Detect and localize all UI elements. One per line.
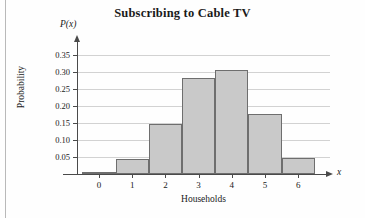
y-tick-label: 0.35 [36,50,70,60]
x-tick-label: 1 [122,180,142,190]
x-tick-label: 3 [189,180,209,190]
x-axis-line [63,174,326,175]
y-axis-arrow-icon [74,35,80,42]
y-tick-label: 0.15 [36,118,70,128]
gridline [77,55,330,56]
x-tick-mark [265,174,266,178]
y-tick-label: 0.05 [36,152,70,162]
histogram-bar [116,159,149,174]
x-tick-mark [298,174,299,178]
figure-canvas: Subscribing to Cable TV P(x) Probability… [0,0,365,218]
histogram-bar [215,70,248,174]
x-tick-mark [165,174,166,178]
y-axis-line [77,41,78,174]
y-tick-label: 0.20 [36,101,70,111]
histogram-bar [282,158,315,174]
x-axis-variable-label: x [337,167,341,177]
y-tick-label: 0.10 [36,135,70,145]
x-tick-label: 6 [288,180,308,190]
x-tick-mark [199,174,200,178]
y-tick-label: 0.25 [36,84,70,94]
histogram-bar [182,78,215,174]
gridline [77,72,330,73]
histogram-bar [248,114,281,174]
x-tick-label: 5 [255,180,275,190]
x-tick-mark [132,174,133,178]
histogram-bar [149,124,182,174]
x-tick-mark [99,174,100,178]
plot-area: P(x) Probability 0.050.100.150.200.250.3… [0,0,365,218]
x-tick-label: 0 [89,180,109,190]
x-axis-arrow-icon [326,171,333,177]
x-tick-mark [232,174,233,178]
x-tick-label: 4 [222,180,242,190]
y-axis-variable-label: P(x) [60,19,76,29]
x-tick-label: 2 [155,180,175,190]
x-axis-title: Households [77,194,330,204]
y-axis-title: Probability [16,42,26,132]
y-tick-label: 0.30 [36,67,70,77]
